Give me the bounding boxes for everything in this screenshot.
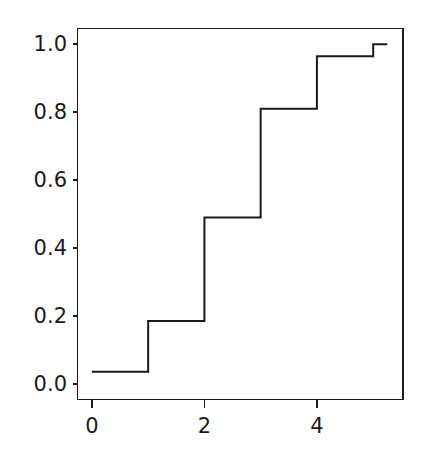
y-tick-label: 0.6 [0,170,67,191]
y-axis-tick-marks [73,44,77,383]
y-tick-label: 0.4 [0,237,67,258]
plot-background [77,28,403,400]
figure-canvas: 0.00.20.40.60.81.0 024 [0,0,422,461]
x-axis-tick-marks [92,400,317,408]
y-tick-label: 0.8 [0,102,67,123]
x-tick-label: 2 [198,416,211,437]
x-tick-label: 0 [85,416,98,437]
y-tick-label: 0.2 [0,305,67,326]
y-tick-label: 0.0 [0,373,67,394]
y-tick-label: 1.0 [0,34,67,55]
x-tick-label: 4 [310,416,323,437]
